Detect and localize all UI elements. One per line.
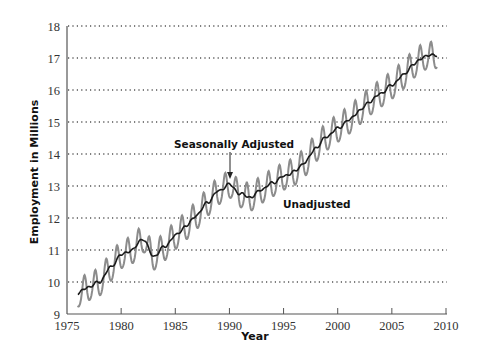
y-tick-labels: 9101112131415161718 (48, 20, 61, 322)
y-tick-label: 14 (48, 148, 61, 162)
x-tick-label: 1985 (163, 319, 188, 333)
y-tick-label: 16 (48, 84, 61, 98)
y-tick-label: 13 (48, 180, 61, 194)
employment-line-chart: 9101112131415161718 19751980198519901995… (0, 0, 485, 364)
y-tick-label: 18 (48, 20, 61, 34)
x-tick-label: 2005 (379, 319, 404, 333)
annotation-seasonally-adjusted-label: Seasonally Adjusted (174, 138, 294, 150)
x-tick-label: 1995 (271, 319, 296, 333)
y-tick-label: 11 (48, 244, 60, 258)
axes (67, 26, 447, 314)
y-tick-label: 17 (48, 52, 61, 66)
series-unadjusted-line (78, 42, 437, 307)
annotation-seasonally-adjusted: Seasonally Adjusted (174, 138, 294, 179)
gridlines (68, 26, 447, 282)
y-tick-label: 15 (48, 116, 61, 130)
y-tick-label: 12 (48, 212, 61, 226)
x-tick-label: 2010 (434, 319, 459, 333)
y-tick-label: 10 (48, 276, 61, 290)
annotation-arrow-head-icon (227, 172, 233, 179)
x-tick-label: 2000 (325, 319, 350, 333)
x-tick-label: 1980 (109, 319, 134, 333)
annotation-unadjusted-label: Unadjusted (283, 198, 351, 210)
y-axis-title: Employment in Millions (28, 99, 41, 244)
x-tick-label: 1990 (217, 319, 242, 333)
x-tick-label: 1975 (55, 319, 80, 333)
x-axis-title: Year (240, 330, 269, 343)
